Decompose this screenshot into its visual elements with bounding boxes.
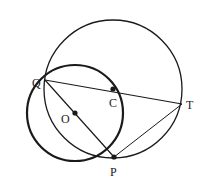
segment-qp	[45, 80, 114, 157]
label-q: Q	[32, 76, 41, 90]
label-c: C	[109, 96, 117, 110]
geometry-diagram: Q C T O P	[0, 0, 206, 191]
point-c-dot	[110, 86, 115, 91]
point-o-dot	[72, 110, 77, 115]
label-p: P	[110, 165, 117, 179]
point-p-dot	[111, 154, 116, 159]
label-t: T	[186, 98, 194, 112]
label-o: O	[61, 112, 70, 126]
